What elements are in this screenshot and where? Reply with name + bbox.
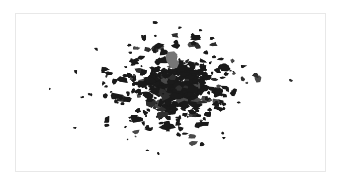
footprint-scatter-canvas bbox=[16, 14, 325, 171]
map-panel bbox=[15, 13, 326, 172]
figure-root bbox=[0, 0, 342, 185]
